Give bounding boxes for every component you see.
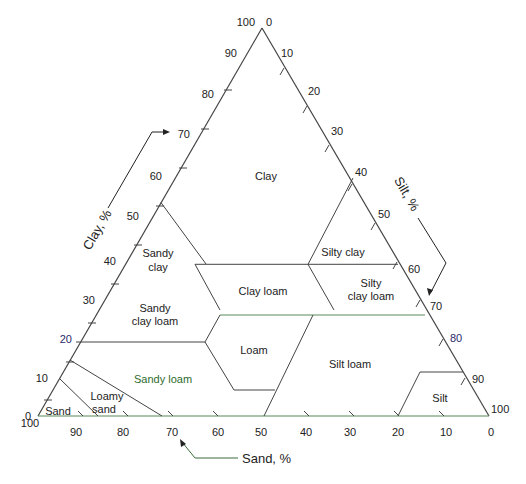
region-silt-loam: Silt loam <box>329 358 371 370</box>
region-sandy-clay-loam-line1: Sandy <box>139 302 171 314</box>
silt-tick-40: 40 <box>355 166 367 178</box>
region-sand: Sand <box>45 405 71 417</box>
silt-axis-title-group: Silt, % <box>391 174 446 296</box>
silt-tick-50: 50 <box>378 208 390 220</box>
clay-axis-title-group: Clay, % <box>80 129 170 252</box>
sand-tick-0: 0 <box>488 426 494 438</box>
clay-tick-70: 70 <box>178 128 190 140</box>
soil-texture-triangle: 0 10 20 30 40 50 60 70 80 90 100 0 10 20… <box>0 0 526 484</box>
tick-marks <box>44 68 465 416</box>
silt-tick-100: 100 <box>491 403 509 415</box>
silt-tick-90: 90 <box>472 373 484 385</box>
sand-tick-80: 80 <box>117 426 129 438</box>
sand-axis-title-group: Sand, % <box>180 439 292 466</box>
sand-axis-title: Sand, % <box>242 451 292 466</box>
silt-tick-10: 10 <box>281 47 293 59</box>
region-sandy-clay-loam-line2: clay loam <box>132 315 178 327</box>
clay-arrow-head-icon <box>163 129 170 135</box>
region-sandy-clay-line2: clay <box>148 261 168 273</box>
clay-axis-labels: 0 10 20 30 40 50 60 70 80 90 100 <box>25 16 255 422</box>
sand-axis-labels: 100 90 80 70 60 50 40 30 20 10 0 <box>21 417 494 438</box>
silt-tick-60: 60 <box>408 263 420 275</box>
region-silty-clay-loam-line1: Silty <box>361 277 382 289</box>
region-loam: Loam <box>240 344 268 356</box>
region-silt: Silt <box>432 392 447 404</box>
silt-arrow <box>418 218 446 292</box>
clay-tick-100: 100 <box>237 16 255 28</box>
sand-tick-30: 30 <box>344 426 356 438</box>
sand-arrow <box>182 442 238 458</box>
clay-tick-30: 30 <box>83 294 95 306</box>
silt-tick-0: 0 <box>266 16 272 28</box>
clay-tick-50: 50 <box>127 210 139 222</box>
region-sandy-clay-line1: Sandy <box>142 247 174 259</box>
clay-tick-20: 20 <box>60 333 72 345</box>
silt-axis-title: Silt, % <box>391 174 423 214</box>
region-loamy-sand-line2: sand <box>92 403 116 415</box>
clay-tick-80: 80 <box>202 88 214 100</box>
region-silty-clay-loam-line2: clay loam <box>348 290 394 302</box>
silt-tick-70: 70 <box>430 300 442 312</box>
region-boundaries <box>60 178 463 416</box>
region-clay-loam: Clay loam <box>239 285 288 297</box>
clay-tick-10: 10 <box>36 372 48 384</box>
region-clay: Clay <box>255 170 278 182</box>
sand-tick-90: 90 <box>70 426 82 438</box>
region-silty-clay: Silty clay <box>321 246 365 258</box>
sand-tick-20: 20 <box>392 426 404 438</box>
sand-tick-70: 70 <box>166 426 178 438</box>
sand-tick-50: 50 <box>255 426 267 438</box>
region-loamy-sand-line1: Loamy <box>90 390 124 402</box>
silt-axis-labels: 0 10 20 30 40 50 60 70 80 90 100 <box>266 16 509 415</box>
clay-tick-90: 90 <box>225 47 237 59</box>
clay-tick-60: 60 <box>150 170 162 182</box>
clay-axis-title: Clay, % <box>80 207 115 253</box>
silt-tick-30: 30 <box>331 125 343 137</box>
clay-tick-40: 40 <box>104 255 116 267</box>
silt-tick-80: 80 <box>450 332 462 344</box>
region-sandy-loam: Sandy loam <box>134 373 192 385</box>
sand-tick-60: 60 <box>212 426 224 438</box>
sand-tick-10: 10 <box>440 426 452 438</box>
sand-tick-100: 100 <box>21 417 39 429</box>
sand-tick-40: 40 <box>300 426 312 438</box>
silt-tick-20: 20 <box>308 85 320 97</box>
